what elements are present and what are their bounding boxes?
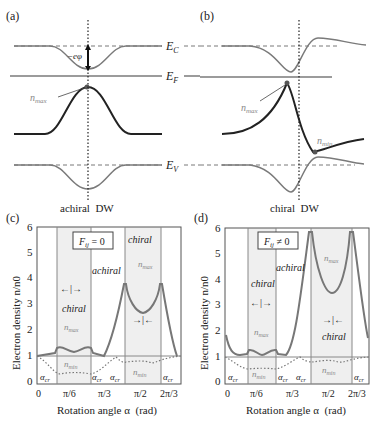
chiral-dw-caption: chiral DW — [270, 202, 319, 214]
y-ticks-c: 012 3456 — [27, 221, 33, 387]
ec-label: EC — [165, 39, 179, 55]
svg-text:5: 5 — [215, 247, 221, 259]
panel-c-label: (c) — [6, 211, 19, 225]
svg-text:π/6: π/6 — [63, 388, 76, 399]
ev-label: EV — [165, 158, 179, 174]
svg-text:αcr: αcr — [163, 372, 173, 383]
ec-curve-b — [222, 38, 366, 72]
svg-text:αcr: αcr — [40, 372, 50, 383]
panel-b: (b) nmax nmin chiral DW — [200, 9, 366, 214]
nmax-marker-b — [285, 81, 290, 86]
svg-text:3: 3 — [27, 297, 33, 309]
svg-text:0: 0 — [27, 375, 33, 387]
nmax-pointer-b — [260, 85, 285, 101]
diverging-arrows-icon: ←|→ — [250, 297, 272, 308]
svg-text:4: 4 — [215, 273, 221, 285]
svg-text:π/6: π/6 — [250, 388, 263, 399]
panel-d: (d) 012 3456 Fij ≠ 0 achiral nmax chiral… — [194, 211, 369, 417]
svg-text:π/3: π/3 — [98, 388, 111, 399]
chiral-label: chiral — [128, 234, 152, 245]
panel-c: (c) 012 3456 Fij = 0 chiral achiral nmax… — [6, 211, 181, 417]
nmax-pointer — [58, 88, 84, 97]
nmax-label-b: nmax — [241, 102, 259, 115]
svg-text:4: 4 — [27, 271, 33, 283]
x-ticks-c: 0π/6π/3 π/22π/3 — [36, 388, 178, 399]
chiral-label: chiral — [322, 331, 346, 342]
svg-text:2: 2 — [215, 324, 221, 336]
svg-text:αcr: αcr — [110, 372, 120, 383]
achiral-dw-caption: achiral DW — [60, 202, 114, 214]
achiral-label: achiral — [92, 265, 121, 276]
density-curve-b — [222, 83, 364, 152]
svg-text:αcr: αcr — [354, 372, 364, 383]
x-axis-label-c: Rotation angle α (rad) — [57, 404, 157, 417]
potential-label: −eφ — [67, 51, 82, 61]
achiral-label: achiral — [276, 262, 305, 273]
panel-a-label: (a) — [6, 9, 19, 23]
svg-text:αcr: αcr — [296, 372, 306, 383]
chiral-label: chiral — [62, 303, 86, 314]
svg-text:6: 6 — [27, 221, 33, 233]
svg-text:2π/3: 2π/3 — [348, 388, 366, 399]
svg-text:3: 3 — [215, 298, 221, 310]
svg-text:5: 5 — [27, 246, 33, 258]
chiral-band-2 — [125, 227, 161, 384]
ev-curve-b — [222, 157, 364, 192]
x-ticks-d: 0π/6π/3 π/22π/3 — [225, 388, 366, 399]
svg-text:6: 6 — [215, 222, 221, 234]
svg-text:1: 1 — [27, 349, 33, 361]
svg-text:π/3: π/3 — [286, 388, 299, 399]
panel-b-label: (b) — [200, 9, 214, 23]
svg-text:αcr: αcr — [278, 372, 288, 383]
ef-label: EF — [165, 69, 178, 85]
svg-text:0: 0 — [36, 388, 41, 399]
x-axis-label-d: Rotation angle α (rad) — [246, 404, 346, 417]
svg-text:2π/3: 2π/3 — [160, 388, 178, 399]
svg-text:π/2: π/2 — [134, 388, 147, 399]
svg-text:αcr: αcr — [92, 372, 102, 383]
y-axis-label-c: Electron density n/n0 — [10, 275, 22, 370]
svg-text:π/2: π/2 — [322, 388, 335, 399]
nmin-marker-b — [313, 150, 318, 155]
diverging-arrows-icon: ←|→ — [60, 283, 82, 294]
svg-text:0: 0 — [215, 375, 221, 387]
svg-text:αcr: αcr — [228, 372, 238, 383]
figure: (a) nmax −eφ EC EF EV achiral DW (b) — [0, 0, 386, 422]
chiral-band-2 — [311, 228, 352, 384]
chiral-label: chiral — [251, 278, 275, 289]
converging-arrows-icon: →|← — [132, 314, 154, 325]
svg-text:1: 1 — [215, 350, 221, 362]
y-ticks-d: 012 3456 — [215, 222, 221, 387]
converging-arrows-icon: →|← — [322, 314, 344, 325]
panel-d-label: (d) — [194, 211, 208, 225]
nmax-marker — [85, 85, 90, 90]
svg-text:2: 2 — [27, 323, 33, 335]
nmax-label-a: nmax — [30, 92, 48, 105]
svg-text:0: 0 — [225, 388, 230, 399]
panel-a: (a) nmax −eφ EC EF EV achiral DW — [6, 9, 179, 214]
nmin-label-b: nmin — [317, 135, 333, 148]
y-axis-label-d: Electron density n/n0 — [198, 275, 210, 370]
arrow-head-up-icon — [85, 44, 91, 50]
